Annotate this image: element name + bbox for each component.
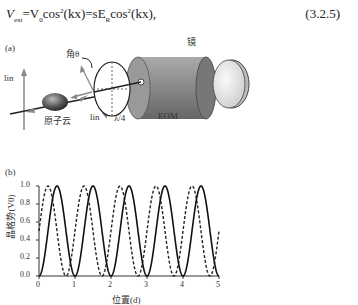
x-axis-label: 位置(d) — [112, 293, 141, 305]
y-tick-label: 0.0 — [20, 270, 30, 279]
y-tick-label: 0.4 — [20, 234, 30, 243]
x-tick-label: 5 — [216, 280, 220, 289]
lattice-potential-chart — [0, 0, 358, 305]
y-tick-label: 0.6 — [20, 216, 30, 225]
y-tick-label: 0.8 — [20, 198, 30, 207]
x-tick-label: 0 — [36, 280, 40, 289]
solid-series-line — [39, 186, 219, 276]
y-tick-label: 1.0 — [20, 180, 30, 189]
x-tick-label: 2 — [108, 280, 112, 289]
x-tick-label: 3 — [144, 280, 148, 289]
x-tick-label: 1 — [72, 280, 76, 289]
x-tick-label: 4 — [180, 280, 184, 289]
y-tick-label: 0.2 — [20, 252, 30, 261]
y-axis-label: 晶格势(V0) — [4, 187, 17, 247]
